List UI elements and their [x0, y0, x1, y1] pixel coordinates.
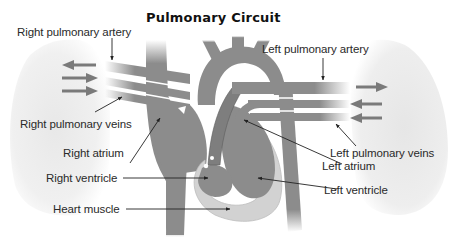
label-left-atrium: Left atrium [322, 161, 375, 173]
right-lung-arrows [62, 60, 98, 96]
diagram-title: Pulmonary Circuit [146, 10, 281, 25]
label-right-atrium: Right atrium [63, 148, 124, 160]
label-heart-muscle: Heart muscle [53, 204, 120, 216]
inferior-vena-cava [166, 175, 184, 237]
label-right-pulmonary-artery: Right pulmonary artery [17, 27, 131, 39]
label-left-pulmonary-veins: Left pulmonary veins [330, 148, 434, 160]
right-atrium-shape [155, 105, 207, 175]
label-right-pulmonary-veins: Right pulmonary veins [20, 119, 132, 131]
label-left-ventricle: Left ventricle [324, 185, 388, 197]
label-right-ventricle: Right ventricle [46, 173, 117, 185]
label-left-pulmonary-artery: Left pulmonary artery [262, 44, 369, 56]
